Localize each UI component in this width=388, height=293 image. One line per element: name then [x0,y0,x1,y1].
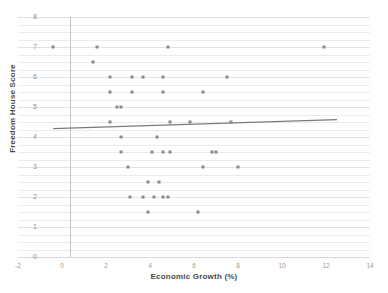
x-axis-line [18,257,370,258]
data-point [131,76,134,79]
data-point [109,76,112,79]
data-point [127,166,130,169]
data-point [120,136,123,139]
data-point [162,196,165,199]
plot-area [18,17,370,257]
data-point [157,181,160,184]
data-point [230,121,233,124]
data-point [188,121,191,124]
x-tick-label: 8 [228,262,248,270]
x-axis-title: Economic Growth (%) [0,272,388,281]
data-point [168,121,171,124]
data-point [162,151,165,154]
data-point [146,211,149,214]
data-point [120,151,123,154]
data-point [215,151,218,154]
x-tick-label: 6 [184,262,204,270]
data-point [142,196,145,199]
data-point [226,76,229,79]
x-tick-label: 10 [272,262,292,270]
x-tick-label: 12 [316,262,336,270]
y-tick-label: 7 [22,43,48,51]
data-point [201,166,204,169]
data-point [153,196,156,199]
data-point [322,46,325,49]
y-tick-label: 8 [22,13,48,21]
x-tick-label: 14 [360,262,380,270]
data-point [151,151,154,154]
data-point [142,76,145,79]
x-tick-label: 2 [96,262,116,270]
x-tick-label: -2 [8,262,28,270]
data-point [168,151,171,154]
y-tick-label: 1 [22,223,48,231]
data-point [146,181,149,184]
data-point [120,106,123,109]
y-tick-label: 5 [22,103,48,111]
data-point [129,196,132,199]
y-tick-label: 4 [22,133,48,141]
x-tick-label: 4 [140,262,160,270]
x-axis-ticks: -202468101214 [18,262,370,272]
scatter-chart: 012345678 -202468101214 Freedom House Sc… [0,0,388,293]
data-point [109,121,112,124]
data-point [201,91,204,94]
x-tick-label: 0 [52,262,72,270]
y-axis-line [70,17,71,257]
data-point [166,196,169,199]
y-axis-title: Freedom House Score [8,49,17,169]
data-point [116,106,119,109]
data-point [155,136,158,139]
y-tick-label: 6 [22,73,48,81]
data-point [96,46,99,49]
y-tick-label: 0 [22,253,48,261]
y-tick-label: 3 [22,163,48,171]
data-point [210,151,213,154]
data-point [162,76,165,79]
y-tick-label: 2 [22,193,48,201]
data-point [109,91,112,94]
data-point [131,91,134,94]
data-point [237,166,240,169]
data-point [52,46,55,49]
data-point [91,61,94,64]
data-point [166,46,169,49]
data-point [162,91,165,94]
data-point [197,211,200,214]
y-axis-ticks: 012345678 [18,17,48,257]
